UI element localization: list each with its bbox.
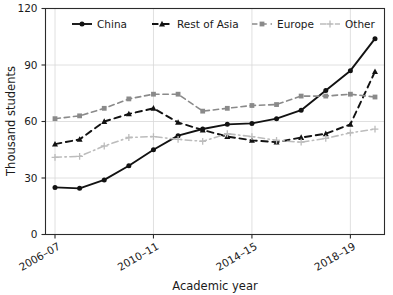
legend-swatch-marker — [260, 22, 265, 27]
data-point — [225, 106, 230, 111]
data-point — [126, 97, 131, 102]
data-point — [299, 94, 304, 99]
x-tick-label: 2010–11 — [115, 240, 160, 273]
data-point — [347, 129, 354, 136]
data-point — [323, 88, 328, 93]
chart-figure: 0306090120 2006–072010–112014–152018–19 … — [0, 0, 393, 295]
data-point — [52, 154, 59, 161]
data-point — [101, 143, 108, 150]
y-tick-label: 60 — [24, 115, 37, 127]
legend-item-europe: Europe — [252, 18, 314, 30]
data-point — [77, 113, 82, 118]
data-point — [372, 68, 378, 74]
data-point — [53, 116, 58, 121]
data-series-group — [52, 36, 379, 191]
legend-label: China — [97, 18, 127, 30]
data-point — [102, 106, 107, 111]
y-axis-title: Thousand students — [4, 66, 18, 177]
x-axis-tick-labels: 2006–072010–112014–152018–19 — [17, 240, 358, 273]
data-point — [225, 122, 230, 127]
data-point — [76, 153, 83, 160]
legend-item-rest-of-asia: Rest of Asia — [152, 18, 239, 30]
series-rest-of-asia — [52, 68, 378, 146]
x-tick-label: 2018–19 — [312, 240, 357, 273]
data-point — [77, 186, 82, 191]
legend: ChinaRest of AsiaEuropeOther — [72, 18, 375, 30]
data-point — [176, 92, 181, 97]
data-point — [249, 121, 254, 126]
data-point — [200, 109, 205, 114]
y-tick-label: 0 — [31, 228, 38, 240]
data-point — [348, 92, 353, 97]
legend-label: Other — [345, 18, 375, 30]
series-other — [52, 126, 379, 161]
data-point — [323, 94, 328, 99]
y-tick-label: 30 — [24, 172, 37, 184]
data-point — [299, 108, 304, 113]
y-tick-label: 120 — [17, 2, 37, 14]
data-point — [373, 95, 378, 100]
data-point — [53, 185, 58, 190]
y-axis-ticks — [42, 9, 46, 235]
data-point — [373, 36, 378, 41]
legend-item-china: China — [72, 18, 127, 30]
y-axis-tick-labels: 0306090120 — [17, 2, 37, 240]
y-tick-label: 90 — [24, 59, 37, 71]
legend-swatch-marker — [80, 22, 85, 27]
legend-label: Europe — [277, 18, 314, 30]
series-europe — [53, 92, 378, 121]
series-china — [53, 36, 378, 191]
data-point — [150, 133, 157, 140]
data-point — [126, 163, 131, 168]
data-point — [125, 134, 132, 141]
data-point — [274, 116, 279, 121]
grid-lines — [46, 9, 385, 235]
x-axis-ticks — [55, 235, 350, 239]
legend-swatch-marker — [327, 21, 334, 28]
x-tick-label: 2006–07 — [17, 240, 62, 273]
legend-label: Rest of Asia — [177, 18, 239, 30]
data-point — [151, 147, 156, 152]
data-point — [372, 126, 379, 133]
x-axis-title: Academic year — [172, 279, 258, 293]
series-line — [55, 39, 375, 189]
legend-item-other: Other — [320, 18, 375, 30]
data-point — [250, 103, 255, 108]
data-point — [249, 133, 256, 140]
data-point — [151, 92, 156, 97]
data-point — [274, 102, 279, 107]
line-chart: 0306090120 2006–072010–112014–152018–19 … — [0, 0, 393, 295]
data-point — [348, 68, 353, 73]
data-point — [102, 177, 107, 182]
x-tick-label: 2014–15 — [214, 240, 259, 273]
data-point — [199, 138, 206, 145]
